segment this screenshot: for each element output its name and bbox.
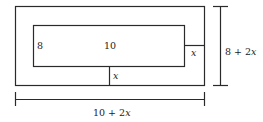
outer-width-var: x [125, 107, 131, 118]
bottom-gap-label: x [113, 70, 119, 81]
outer-height-num: 8 + 2 [225, 46, 251, 57]
outer-width-num: 10 + 2 [93, 107, 125, 118]
right-gap-label: x [191, 47, 197, 58]
outer-height-label: 8 + 2x [225, 46, 257, 57]
inner-width-label: 10 [104, 40, 116, 51]
outer-width-label: 10 + 2x [93, 107, 131, 118]
rectangle-border-diagram: 8 10 x x 8 + 2x 10 + 2x [0, 0, 263, 122]
outer-height-var: x [251, 46, 257, 57]
inner-height-label: 8 [37, 40, 43, 51]
